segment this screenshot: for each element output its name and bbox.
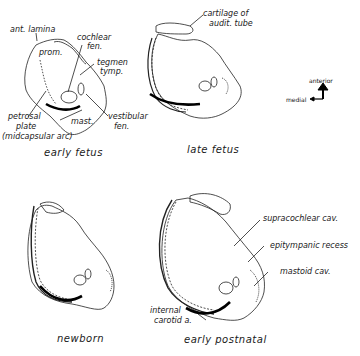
orientation-arrows	[310, 83, 328, 101]
label-tegmen-tymp-1: tegmen	[97, 58, 128, 67]
label-carotid-1: internal	[150, 306, 181, 315]
label-cochlear-fen-2: fen.	[87, 42, 102, 51]
caption-early-fetus: early fetus	[44, 147, 103, 158]
newborn-drawing	[28, 202, 114, 309]
label-tegmen-tymp-2: tymp.	[100, 67, 123, 76]
early-postnatal-drawing	[159, 194, 268, 321]
label-epitympanic: epitympanic recess	[270, 241, 348, 250]
label-cartilage-2: audit. tube	[209, 19, 253, 28]
label-carotid-2: carotid a.	[154, 316, 192, 325]
label-mast: mast.	[71, 117, 94, 126]
caption-early-postnatal: early postnatal	[184, 334, 267, 345]
label-vestibular-fen-1: vestibular	[108, 112, 148, 121]
label-cochlear-fen-1: cochlear	[77, 33, 111, 42]
label-petrosal-plate-2: plate	[16, 122, 36, 131]
late-fetus-drawing	[148, 15, 241, 118]
label-medial: medial	[286, 96, 306, 103]
label-petrosal-plate-1: petrosal	[8, 112, 41, 121]
label-cartilage-1: cartilage of	[203, 9, 248, 18]
label-supracochlear: supracochlear cav.	[263, 214, 338, 223]
label-mastoid: mastoid cav.	[280, 267, 331, 276]
label-prom: prom.	[39, 48, 63, 57]
caption-late-fetus: late fetus	[187, 144, 239, 155]
caption-newborn: newborn	[57, 333, 104, 344]
label-vestibular-fen-2: fen.	[114, 122, 129, 131]
label-anterior: anterior	[309, 77, 333, 84]
label-petrosal-plate-3: (midcapsular arc)	[2, 132, 73, 141]
label-ant-lamina: ant. lamina	[10, 25, 55, 34]
